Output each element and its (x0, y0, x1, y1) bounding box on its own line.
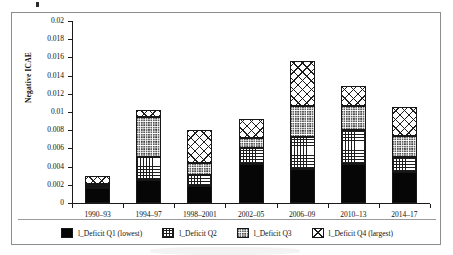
x-tick-mark (72, 204, 73, 208)
bar-segment-q2[interactable] (136, 157, 161, 181)
y-tick-mark (68, 57, 72, 58)
chart-figure-frame: Negative ICAE 0.020.0180.0160.0140.0120.… (11, 12, 441, 245)
bar-segment-q4[interactable] (187, 130, 212, 163)
legend-separator (18, 219, 436, 220)
y-tick-mark (68, 39, 72, 40)
legend-label-q4: l_Deficit Q4 (largest) (329, 229, 393, 238)
bar-stack[interactable] (85, 176, 110, 203)
bar-stack[interactable] (136, 110, 161, 203)
legend-swatch-q1 (61, 228, 73, 238)
bar-segment-q2[interactable] (392, 157, 417, 172)
scan-smudge (150, 247, 300, 255)
chart-legend: l_Deficit Q1 (lowest)l_Deficit Q2l_Defic… (18, 222, 436, 244)
plot-area: Negative ICAE 0.020.0180.0160.0140.0120.… (12, 13, 442, 246)
legend-label-q2: l_Deficit Q2 (179, 229, 217, 238)
y-tick-label: 0.008 (22, 126, 64, 134)
y-tick: 0.02 (12, 21, 72, 22)
bar-stack[interactable] (392, 107, 417, 203)
bar-segment-q1[interactable] (239, 164, 264, 203)
y-tick-label: 0 (22, 199, 64, 207)
legend-label-q3: l_Deficit Q3 (254, 229, 292, 238)
y-tick-label: 0.01 (22, 108, 64, 116)
x-axis-line (72, 203, 430, 204)
legend-item-q1[interactable]: l_Deficit Q1 (lowest) (61, 228, 142, 238)
y-tick-mark (68, 21, 72, 22)
legend-item-q2[interactable]: l_Deficit Q2 (162, 228, 217, 238)
x-tick-mark (430, 204, 431, 208)
bar-segment-q4[interactable] (341, 86, 366, 106)
bar-stack[interactable] (239, 119, 264, 203)
legend-swatch-q3 (237, 228, 249, 238)
y-tick: 0.004 (12, 167, 72, 168)
bar-segment-q4[interactable] (290, 61, 315, 106)
x-tick-mark (328, 204, 329, 208)
y-tick: 0.014 (12, 76, 72, 77)
bar-segment-q2[interactable] (85, 186, 110, 189)
y-tick: 0.018 (12, 39, 72, 40)
y-tick-mark (68, 112, 72, 113)
y-tick-mark (68, 130, 72, 131)
x-tick-mark (379, 204, 380, 208)
y-tick-label: 0.018 (22, 35, 64, 43)
legend-label-q1: l_Deficit Q1 (lowest) (78, 229, 142, 238)
bar-segment-q1[interactable] (187, 186, 212, 203)
y-tick: 0.002 (12, 185, 72, 186)
bar-segment-q3[interactable] (341, 106, 366, 131)
bar-stack[interactable] (290, 61, 315, 203)
bar-segment-q1[interactable] (85, 188, 110, 203)
bar-segment-q2[interactable] (187, 175, 212, 186)
legend-item-q4[interactable]: l_Deficit Q4 (largest) (312, 228, 393, 238)
x-tick-mark (225, 204, 226, 208)
y-tick-label: 0.016 (22, 53, 64, 61)
bar-segment-q4[interactable] (85, 176, 110, 184)
bar-segment-q3[interactable] (239, 138, 264, 147)
y-tick-label: 0.014 (22, 72, 64, 80)
y-tick: 0.006 (12, 148, 72, 149)
y-tick-mark (68, 167, 72, 168)
bar-segment-q4[interactable] (239, 119, 264, 138)
y-tick: 0.012 (12, 94, 72, 95)
y-tick: 0 (12, 203, 72, 204)
bar-segment-q2[interactable] (341, 130, 366, 164)
y-tick: 0.01 (12, 112, 72, 113)
x-tick-mark (123, 204, 124, 208)
bar-segment-q3[interactable] (187, 163, 212, 175)
y-tick-label: 0.002 (22, 181, 64, 189)
bar-segment-q2[interactable] (290, 137, 315, 170)
bar-segment-q1[interactable] (290, 169, 315, 203)
figure-page: Negative ICAE 0.020.0180.0160.0140.0120.… (0, 0, 453, 255)
y-tick-label: 0.006 (22, 144, 64, 152)
y-tick-label: 0.02 (22, 17, 64, 25)
y-tick: 0.008 (12, 130, 72, 131)
bar-segment-q1[interactable] (392, 172, 417, 203)
y-tick-label: 0.004 (22, 163, 64, 171)
bar-segment-q3[interactable] (290, 106, 315, 137)
y-tick-mark (68, 94, 72, 95)
bar-segment-q1[interactable] (136, 180, 161, 203)
page-artifact-mark (36, 2, 39, 7)
bar-segment-q2[interactable] (239, 148, 264, 164)
legend-swatch-q4 (312, 228, 324, 238)
legend-swatch-q2 (162, 228, 174, 238)
bar-stack[interactable] (187, 130, 212, 203)
bar-segment-q3[interactable] (85, 184, 110, 186)
y-tick-label: 0.012 (22, 90, 64, 98)
y-tick: 0.016 (12, 57, 72, 58)
x-tick-label: 2014–17 (374, 210, 434, 219)
x-tick-mark (277, 204, 278, 208)
y-tick-mark (68, 185, 72, 186)
y-tick-mark (68, 148, 72, 149)
legend-item-q3[interactable]: l_Deficit Q3 (237, 228, 292, 238)
bar-segment-q1[interactable] (341, 164, 366, 203)
bar-segment-q4[interactable] (136, 110, 161, 116)
y-axis-line (72, 21, 73, 204)
x-tick-mark (174, 204, 175, 208)
bar-stack[interactable] (341, 86, 366, 203)
bar-segment-q3[interactable] (136, 117, 161, 157)
bar-segment-q3[interactable] (392, 136, 417, 157)
y-tick-mark (68, 76, 72, 77)
bar-segment-q4[interactable] (392, 107, 417, 135)
